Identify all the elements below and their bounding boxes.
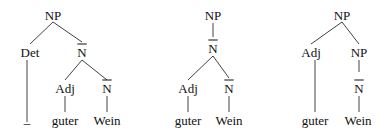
tree-node-t2_nbar2: N bbox=[224, 82, 233, 95]
tree-node-t2_nbar1: N bbox=[208, 42, 217, 55]
tree-node-t3_adj: Adj bbox=[301, 46, 321, 59]
tree-node-t3_wein: Wein bbox=[344, 114, 371, 127]
tree-node-t1_nbar1: N bbox=[77, 46, 86, 59]
tree-node-t2_np: NP bbox=[205, 9, 222, 22]
tree-node-t1_guter: guter bbox=[52, 114, 79, 127]
tree-node-t2_adj: Adj bbox=[178, 82, 198, 95]
tree-node-t1_nbar2: N bbox=[102, 82, 111, 95]
syntax-trees-diagram: NPDetNAdjNguterWein_NPNAdjNguterWeinNPAd… bbox=[0, 0, 389, 133]
tree-edge bbox=[188, 56, 213, 80]
tree-node-t1_det: Det bbox=[21, 46, 40, 59]
tree-node-t3_guter: guter bbox=[302, 114, 329, 127]
tree-edge bbox=[82, 60, 107, 80]
tree-edge bbox=[213, 56, 229, 78]
tree-node-t2_wein: Wein bbox=[215, 114, 242, 127]
tree-node-t1_wein: Wein bbox=[93, 114, 120, 127]
tree-node-t3_np: NP bbox=[334, 9, 351, 22]
tree-edge bbox=[65, 60, 82, 80]
tree-node-t1_adj: Adj bbox=[55, 82, 75, 95]
tree-edge bbox=[30, 22, 53, 44]
tree-edge bbox=[342, 22, 359, 44]
tree-node-t2_guter: guter bbox=[175, 114, 202, 127]
tree-node-t1_empty: _ bbox=[24, 112, 31, 125]
tree-edge bbox=[53, 22, 82, 42]
tree-node-t3_nbar: N bbox=[354, 82, 363, 95]
tree-node-t3_np2: NP bbox=[351, 46, 368, 59]
tree-edge bbox=[311, 22, 342, 44]
tree-node-t1_np: NP bbox=[45, 9, 62, 22]
